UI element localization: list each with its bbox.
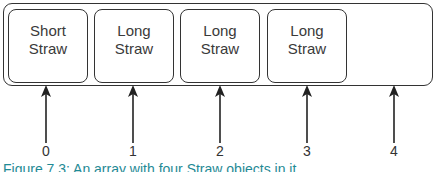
element-label-line1: Long [290, 22, 323, 40]
index-label-3: 3 [297, 143, 317, 159]
arrow-up-icon [127, 85, 139, 143]
array-element-0: Short Straw [8, 9, 88, 83]
array-element-3: Long Straw [267, 9, 347, 83]
index-label-1: 1 [123, 143, 143, 159]
array-element-2: Long Straw [180, 9, 260, 83]
index-label-4: 4 [384, 143, 404, 159]
element-label-line2: Straw [29, 40, 67, 58]
arrow-up-icon [301, 85, 313, 143]
arrow-up-icon [214, 85, 226, 143]
element-label-line1: Short [30, 22, 66, 40]
index-label-0: 0 [36, 143, 56, 159]
element-label-line2: Straw [115, 40, 153, 58]
element-label-line1: Long [117, 22, 150, 40]
arrow-up-icon [388, 85, 400, 143]
figure-caption: Figure 7.3: An array with four Straw obj… [3, 161, 296, 172]
array-element-1: Long Straw [94, 9, 174, 83]
arrow-up-icon [40, 85, 52, 143]
element-label-line2: Straw [201, 40, 239, 58]
index-label-2: 2 [210, 143, 230, 159]
element-label-line2: Straw [288, 40, 326, 58]
element-label-line1: Long [203, 22, 236, 40]
